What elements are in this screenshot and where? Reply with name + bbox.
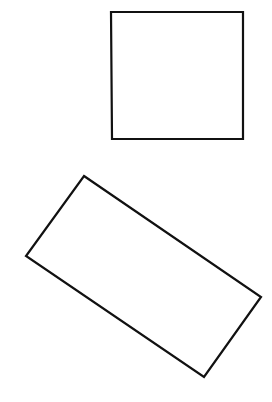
square-shape xyxy=(111,12,243,139)
rotated-rectangle-shape xyxy=(26,176,261,377)
diagram-canvas xyxy=(0,0,272,402)
